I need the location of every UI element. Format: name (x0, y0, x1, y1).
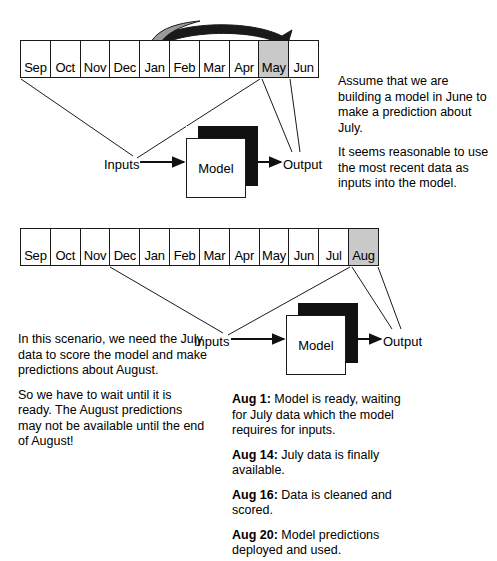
timeline-section2: Sep Oct Nov Dec Jan Feb Mar Apr May Jun … (20, 228, 379, 266)
timeline2-cell-nov[interactable]: Nov (81, 229, 111, 265)
timeline2-cell-apr[interactable]: Apr (230, 229, 260, 265)
august-schedule-list: Aug 1: Model is ready, waiting for July … (232, 392, 412, 561)
schedule-date: Aug 20: (232, 528, 278, 542)
timeline2-cell-mar[interactable]: Mar (200, 229, 230, 265)
timeline-cell-sep[interactable]: Sep (21, 41, 51, 77)
scenario-text-block: In this scenario, we need the July data … (18, 332, 208, 450)
timeline-cell-dec[interactable]: Dec (110, 41, 140, 77)
schedule-date: Aug 14: (232, 448, 278, 462)
output-label-section1: Output (283, 157, 322, 172)
timeline-cell-feb[interactable]: Feb (170, 41, 200, 77)
schedule-date: Aug 16: (232, 488, 278, 502)
assume-paragraph-1: Assume that we are building a model in J… (338, 74, 493, 136)
timeline-cell-oct[interactable]: Oct (51, 41, 81, 77)
timeline2-cell-dec[interactable]: Dec (110, 229, 140, 265)
timeline-section1: Sep Oct Nov Dec Jan Feb Mar Apr May Jun (20, 40, 319, 78)
cube2-front-face: Model (286, 315, 346, 375)
scenario-paragraph-1: In this scenario, we need the July data … (18, 332, 208, 379)
assume-text-block: Assume that we are building a model in J… (338, 74, 493, 192)
timeline-cell-jun[interactable]: Jun (289, 41, 318, 77)
timeline2-cell-aug-highlighted[interactable]: Aug (349, 229, 378, 265)
inputs-label-section1: Inputs (104, 157, 139, 172)
scenario-paragraph-2: So we have to wait until it is ready. Th… (18, 388, 208, 450)
timeline2-cell-sep[interactable]: Sep (21, 229, 51, 265)
timeline-cell-apr[interactable]: Apr (230, 41, 260, 77)
timeline2-cell-jul[interactable]: Jul (319, 229, 349, 265)
cube2-side-notch (345, 363, 358, 375)
schedule-item: Aug 16: Data is cleaned and scored. (232, 488, 412, 519)
timeline-cell-may-highlighted[interactable]: May (259, 41, 289, 77)
timeline2-cell-jan[interactable]: Jan (140, 229, 170, 265)
schedule-date: Aug 1: (232, 392, 271, 406)
schedule-item: Aug 14: July data is finally available. (232, 448, 412, 479)
timeline-cell-mar[interactable]: Mar (200, 41, 230, 77)
cube-side-notch (245, 186, 258, 198)
output-label-section2: Output (383, 334, 422, 349)
cube-front-face: Model (186, 138, 246, 198)
output-span-lines-section1 (262, 79, 300, 152)
assume-paragraph-2: It seems reasonable to use the most rece… (338, 145, 493, 192)
output-span-lines-section2 (352, 267, 401, 329)
timeline2-cell-jun[interactable]: Jun (289, 229, 319, 265)
timeline2-cell-may[interactable]: May (260, 229, 290, 265)
model2-label: Model (298, 338, 333, 353)
model-label: Model (198, 161, 233, 176)
model-cube-section2: Model (286, 303, 358, 375)
timeline-cell-nov[interactable]: Nov (81, 41, 111, 77)
timeline2-cell-feb[interactable]: Feb (170, 229, 200, 265)
schedule-item: Aug 20: Model predictions deployed and u… (232, 528, 412, 559)
model-cube-section1: Model (186, 126, 258, 198)
timeline2-cell-oct[interactable]: Oct (51, 229, 81, 265)
schedule-item: Aug 1: Model is ready, waiting for July … (232, 392, 412, 439)
timeline-cell-jan[interactable]: Jan (140, 41, 170, 77)
